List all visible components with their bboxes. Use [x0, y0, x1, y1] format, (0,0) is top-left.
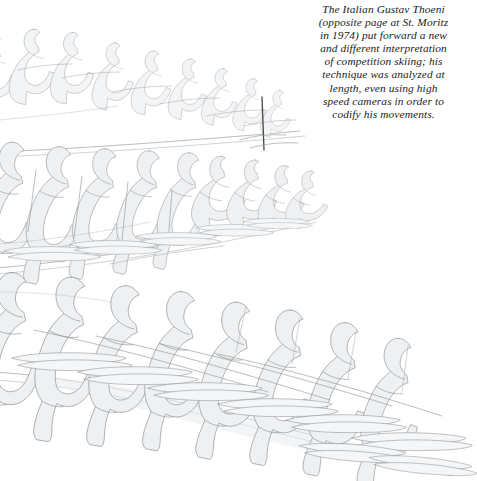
figure-caption: The Italian Gustav Thoeni (opposite page… [292, 3, 475, 121]
middle-band-group [0, 139, 336, 290]
upper-band-group [0, 26, 305, 157]
lower-band-group [0, 269, 477, 481]
page-canvas: .fg{fill:#eef0f2;stroke:#8d9094;stroke-w… [0, 0, 477, 481]
